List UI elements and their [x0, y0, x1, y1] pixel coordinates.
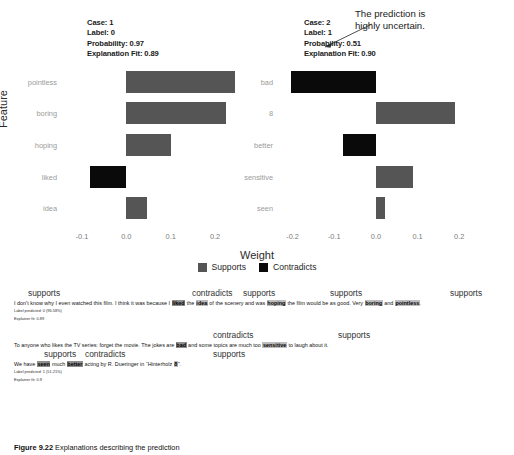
bar-row: liked — [62, 161, 247, 193]
legend-label-contradicts: Contradicts — [273, 262, 316, 272]
sentence-text: We have — [14, 361, 37, 367]
caption-number: Figure 9.22 — [14, 443, 53, 452]
x-tick-label: -0.1 — [328, 232, 341, 241]
panel-header-case-1: Case: 1Label: 0Probability: 0.97Explanat… — [87, 18, 159, 60]
sentence-text: the — [185, 300, 196, 306]
x-tick-label: 0.1 — [166, 232, 176, 241]
y-tick-label: sensitive — [244, 172, 273, 181]
panel-case-1: Case: 1Label: 0Probability: 0.97Explanat… — [62, 0, 247, 248]
panel-header-line-3: Probability: 0.51 — [304, 39, 376, 49]
legend-swatch-supports — [198, 263, 207, 272]
bar-pointless — [126, 71, 235, 93]
explanation-figure: Feature The prediction is highly uncerta… — [0, 0, 514, 272]
panel-header-line-1: Case: 2 — [304, 18, 376, 28]
explanation-block-2: contradictssupportsTo anyone who likes t… — [0, 330, 514, 383]
label-predicted: Label predicted: 0 (96.58%) — [0, 307, 514, 314]
sentence-text: I don't know why I even watched this fil… — [14, 300, 172, 306]
y-tick-label: pointless — [28, 77, 57, 86]
y-tick-label: idea — [43, 204, 57, 213]
y-tick-label: 8 — [269, 109, 273, 118]
legend-item-contradicts: Contradicts — [259, 262, 316, 272]
y-tick-label: hoping — [35, 140, 57, 149]
panel-header-line-2: Label: 0 — [87, 28, 159, 38]
bar-idea — [126, 197, 146, 219]
relation-tag-row: contradictssupports — [0, 330, 514, 341]
caption-text: Explanations describing the prediction — [55, 443, 180, 452]
relation-tag-row: supportscontradictssupports — [0, 349, 514, 360]
bar-row: hoping — [62, 129, 247, 161]
bar-boring — [126, 102, 226, 124]
sentence-text: ”. — [178, 361, 181, 367]
y-tick-label: bad — [261, 77, 273, 86]
x-axis-case-2: -0.2-0.10.00.10.2 — [278, 232, 478, 246]
highlighted-token: pointless — [395, 300, 420, 306]
sentence-text: much — [50, 361, 66, 367]
x-tick-label: 0.0 — [121, 232, 131, 241]
x-tick-label: 0.0 — [371, 232, 381, 241]
relation-tag-contradicts: contradicts — [213, 330, 254, 340]
sentence-text: To anyone who likes the TV series: forge… — [14, 342, 176, 348]
bar-row: pointless — [62, 66, 247, 98]
y-axis-title: Feature — [0, 90, 9, 128]
x-tick-label: 0.1 — [412, 232, 422, 241]
plot-area-case-1: pointlessboringhopinglikedidea — [62, 66, 247, 224]
sentence-text: of the scenery and was — [208, 300, 267, 306]
explained-sentence: We have seen much better acting by R. Du… — [0, 360, 514, 368]
panel-header-line-4: Explanation Fit: 0.89 — [87, 49, 159, 59]
highlighted-token: idea — [196, 300, 208, 306]
relation-tag-supports: supports — [28, 288, 60, 298]
panel-header-line-1: Case: 1 — [87, 18, 159, 28]
label-predicted: Label predicted: 1 (51.21%) — [0, 368, 514, 375]
panel-header-line-2: Label: 1 — [304, 28, 376, 38]
relation-tag-supports: supports — [213, 349, 245, 359]
relation-tag-supports: supports — [450, 288, 482, 298]
bar-sensitive — [376, 166, 414, 188]
x-axis-title: Weight — [0, 249, 514, 261]
sentence-text: the film would be as good. Very — [286, 300, 365, 306]
sentence-text: and some topics are much too — [187, 342, 263, 348]
legend-item-supports: Supports — [198, 262, 246, 272]
x-tick-label: -0.2 — [286, 232, 299, 241]
explanation-block-1: supportscontradictssupportssupportssuppo… — [0, 288, 514, 322]
bar-row: 8 — [278, 98, 478, 130]
y-tick-label: liked — [42, 172, 57, 181]
relation-tag-supports: supports — [44, 349, 76, 359]
highlighted-token: seen — [37, 361, 51, 367]
highlighted-token: boring — [365, 300, 383, 306]
sentence-text: acting by R. Dueringer in “Hinterholz — [83, 361, 174, 367]
bar-seen — [376, 197, 385, 219]
x-tick-label: 0.2 — [454, 232, 464, 241]
relation-tag-row: supportscontradictssupportssupportssuppo… — [0, 288, 514, 299]
panel-header-line-3: Probability: 0.97 — [87, 39, 159, 49]
bar-hoping — [126, 134, 170, 156]
panel-case-2: Case: 2Label: 1Probability: 0.51Explanat… — [278, 0, 478, 248]
bar-row: sensitive — [278, 161, 478, 193]
legend-label-supports: Supports — [212, 262, 246, 272]
highlighted-token: sensitive — [262, 342, 286, 348]
bar-liked — [90, 166, 127, 188]
relation-tag-contradicts: contradicts — [192, 288, 233, 298]
y-tick-label: seen — [257, 204, 273, 213]
relation-tag-supports: supports — [243, 288, 275, 298]
explained-sentence: I don't know why I even watched this fil… — [0, 299, 514, 307]
plot-area-case-2: bad8bettersensitiveseen — [278, 66, 478, 224]
bar-8 — [376, 102, 455, 124]
relation-tag-supports: supports — [330, 288, 362, 298]
highlighted-token: bad — [176, 342, 187, 348]
x-tick-label: -0.1 — [76, 232, 89, 241]
x-axis-case-1: -0.10.00.10.2 — [62, 232, 247, 246]
bar-row: better — [278, 129, 478, 161]
y-tick-label: boring — [36, 109, 57, 118]
sentence-text: and — [383, 300, 395, 306]
legend-swatch-contradicts — [259, 263, 268, 272]
highlighted-token: liked — [172, 300, 186, 306]
relation-tag-supports: supports — [338, 330, 370, 340]
sentence-text: to laugh about it. — [287, 342, 329, 348]
panel-header-line-4: Explanation Fit: 0.90 — [304, 49, 376, 59]
bar-row: idea — [62, 192, 247, 224]
text-explanations: supportscontradictssupportssupportssuppo… — [0, 288, 514, 383]
x-tick-label: 0.2 — [210, 232, 220, 241]
relation-tag-contradicts: contradicts — [85, 349, 126, 359]
highlighted-token: hoping — [267, 300, 286, 306]
legend: SupportsContradicts — [0, 262, 514, 272]
